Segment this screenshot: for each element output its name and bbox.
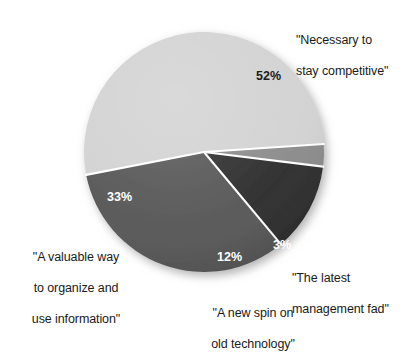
slice-value-label-33: 33% — [107, 190, 132, 204]
label-line-2: stay competitive" — [296, 64, 388, 80]
slice-value-label-3: 3% — [273, 238, 291, 252]
label-line-2: to organize and — [6, 281, 146, 297]
slice-category-label-latest-management-fad: "The latest management fad" — [292, 255, 389, 333]
label-line-3: use information" — [6, 312, 146, 328]
label-line-2: management fad" — [292, 302, 389, 318]
slice-value-label-12: 12% — [217, 250, 242, 264]
slice-category-label-necessary-to-stay-competitive: "Necessary to stay competitive" — [296, 17, 388, 95]
label-line-2: old technology" — [186, 337, 320, 353]
slice-category-label-valuable-way-to-organize: "A valuable way to organize and use info… — [6, 234, 146, 343]
slice-value-label-52: 52% — [256, 69, 281, 83]
label-line-1: "Necessary to — [296, 33, 388, 49]
label-line-1: "A valuable way — [6, 250, 146, 266]
label-line-1: "The latest — [292, 271, 389, 287]
